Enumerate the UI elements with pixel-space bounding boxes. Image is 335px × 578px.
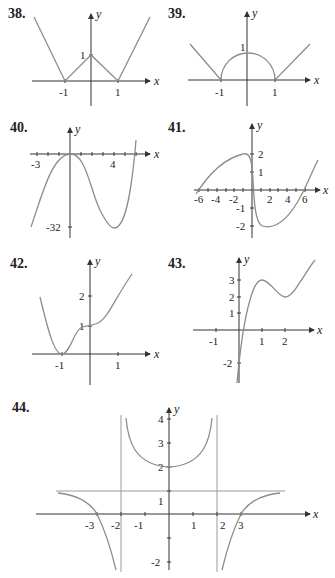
graph-38-curve [34, 17, 150, 81]
x-tick-label: -3 [31, 158, 41, 170]
y-axis-label: y [94, 254, 101, 268]
y-tick-label: 1 [158, 495, 164, 507]
x-axis-label: x [313, 73, 320, 87]
y-tick-label: -32 [46, 221, 61, 233]
x-tick-label: -1 [55, 359, 64, 371]
graphs-canvas: x y -1 1 1 x y -1 1 1 x y [0, 0, 335, 578]
y-tick-label: 1 [80, 49, 86, 61]
y-tick-label: 2 [229, 291, 235, 303]
y-tick-label: 2 [79, 290, 85, 302]
y-tick-label: 1 [229, 307, 235, 319]
graph-41: x y -6 -4 -2 2 4 6 2 1 -1 -2 [194, 118, 329, 238]
graph-44-right-branch [222, 493, 280, 570]
graph-42-curve [40, 274, 132, 354]
graph-44-left-branch [58, 493, 116, 570]
x-tick-label: -2 [111, 519, 120, 531]
x-tick-label: -1 [209, 335, 218, 347]
x-tick-label: 4 [285, 193, 291, 205]
graph-39-curve [190, 44, 310, 80]
y-tick-label: 1 [240, 41, 246, 53]
x-tick-label: -1 [215, 86, 224, 98]
y-tick-label: -2 [236, 220, 245, 232]
x-axis-label: x [153, 147, 160, 161]
x-tick-label: 1 [191, 519, 197, 531]
x-tick-label: -6 [194, 193, 204, 205]
y-axis-label: y [256, 118, 263, 132]
graph-42: x y -1 1 2 1 [32, 254, 160, 385]
x-tick-label: -1 [134, 519, 143, 531]
x-tick-label: 2 [220, 519, 226, 531]
x-tick-label: 1 [259, 335, 265, 347]
y-tick-label: 2 [258, 148, 264, 160]
y-axis-label: y [243, 252, 250, 266]
y-tick-label: 1 [258, 166, 264, 178]
x-axis-label: x [312, 507, 319, 521]
y-axis-label: y [251, 6, 258, 20]
graph-44: x y -3 -2 -1 1 2 3 4 3 2 1 -2 [36, 402, 319, 572]
x-tick-label: 1 [115, 359, 121, 371]
x-axis-label: x [316, 323, 323, 337]
x-tick-label: 2 [267, 193, 273, 205]
x-tick-label: -3 [85, 519, 95, 531]
y-tick-label: -2 [151, 556, 160, 568]
x-axis-label: x [322, 183, 329, 197]
x-tick-label: -1 [59, 86, 68, 98]
y-axis-label: y [95, 7, 102, 21]
x-tick-label: -4 [211, 193, 221, 205]
x-axis-label: x [153, 347, 160, 361]
graph-40-curve [31, 140, 136, 228]
y-tick-label: -1 [236, 202, 245, 214]
y-tick-label: 3 [229, 274, 235, 286]
x-tick-label: 6 [302, 193, 308, 205]
x-tick-label: 1 [272, 86, 278, 98]
x-tick-label: 3 [238, 519, 244, 531]
graph-40: x y -3 4 -32 [30, 122, 160, 238]
graph-43: x y -1 1 2 3 2 1 -2 [193, 252, 323, 383]
graph-43-curve [237, 260, 315, 383]
x-tick-label: 1 [115, 86, 121, 98]
x-tick-label: 4 [110, 158, 116, 170]
y-tick-label: 4 [158, 413, 164, 425]
y-axis-label: y [74, 122, 81, 136]
x-tick-label: 2 [282, 335, 288, 347]
graph-38: x y -1 1 1 [32, 7, 160, 106]
y-axis-label: y [173, 402, 180, 416]
x-axis-label: x [153, 74, 160, 88]
y-tick-label: -2 [223, 357, 232, 369]
y-tick-label: 3 [158, 437, 164, 449]
graph-39: x y -1 1 1 [188, 6, 320, 106]
